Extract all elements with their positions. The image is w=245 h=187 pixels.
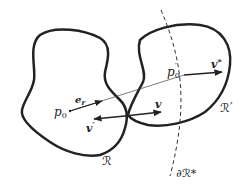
label-boundary: ∂ℛ* xyxy=(176,167,197,180)
point-p0 xyxy=(69,110,71,112)
diagram-canvas: p0 p0′ er v v′ v* ℛ ℛ′ ∂ℛ* xyxy=(0,0,245,187)
label-region-r-prime: ℛ′ xyxy=(220,101,233,115)
label-v-prime: v′ xyxy=(86,119,95,135)
label-region-r: ℛ xyxy=(102,154,112,168)
label-p0: p0 xyxy=(54,105,67,120)
label-e-r: er xyxy=(75,94,86,107)
vector-v-arrow xyxy=(125,112,161,116)
boundary-arc xyxy=(161,10,181,176)
region-r-outline xyxy=(22,29,127,155)
vector-v-star-arrow xyxy=(184,72,222,75)
vector-v-prime-arrow xyxy=(94,116,125,119)
label-v-star: v* xyxy=(211,56,222,71)
label-v: v xyxy=(155,98,162,111)
